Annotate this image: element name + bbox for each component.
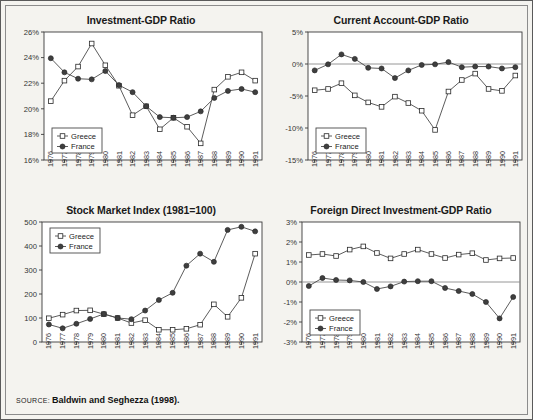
data-point-greece [406,101,411,106]
data-point-france [443,286,448,291]
data-point-greece [320,252,325,257]
data-point-greece [62,78,67,83]
legend-label-greece: Greece [69,232,94,241]
data-point-france [374,287,379,292]
plot-area: -15%-10%-5%0%5%1976197719781979198019811… [272,28,530,200]
data-point-greece [89,41,94,46]
y-tick-label: 18% [24,130,39,139]
data-point-france [446,60,451,65]
data-point-france [129,317,134,322]
legend-marker-france [58,244,63,249]
x-tick-label: 1985 [169,151,178,167]
legend-label-france: France [335,142,359,151]
data-point-france [62,70,67,75]
x-tick-label: 1987 [457,151,466,167]
x-tick-label: 1987 [196,151,205,167]
legend-marker-greece [324,134,329,139]
y-tick-label: 200 [24,290,37,299]
data-point-greece [470,251,475,256]
data-point-france [211,259,216,264]
data-point-france [144,104,149,109]
data-point-greece [143,318,148,323]
data-point-greece [74,308,79,313]
data-point-greece [239,70,244,75]
x-tick-label: 1988 [209,333,218,349]
data-point-france [130,90,135,95]
data-point-france [361,280,366,285]
plot-area: -3%-2%-1%0%1%2%3%19761977197819791980198… [272,218,530,382]
x-tick-label: 1983 [400,333,409,349]
data-point-greece [158,127,163,132]
legend-label-france: France [71,142,95,151]
data-point-greece [429,252,434,257]
y-tick-label: 24% [24,53,39,62]
y-tick-label: -1% [283,298,297,307]
panel-foreign-direct-investment-gdp-ratio: Foreign Direct Investment-GDP Ratio -3%-… [272,198,530,380]
x-tick-label: 1989 [484,151,493,167]
y-tick-label: 0 [33,338,37,347]
y-tick-label: 20% [24,105,39,114]
data-point-greece [446,89,451,94]
panel-grid: Investment-GDP Ratio 16%18%20%22%24%26%1… [6,6,527,382]
data-point-greece [353,93,358,98]
data-point-france [456,289,461,294]
data-point-france [459,65,464,70]
panel-current-account-gdp-ratio: Current Account-GDP Ratio -15%-10%-5%0%5… [272,8,530,198]
x-tick-label: 1988 [468,333,477,349]
data-point-greece [47,316,52,321]
data-point-france [239,224,244,229]
panel-investment-gdp-ratio: Investment-GDP Ratio 16%18%20%22%24%26%1… [10,8,272,198]
plot-area: 0100200300400500197619771978197919801981… [10,218,272,382]
data-point-france [392,76,397,81]
panel-stock-market-index: Stock Market Index (1981=100) 0100200300… [10,198,272,380]
data-point-france [347,278,352,283]
data-point-france [379,66,384,71]
legend-label-france: France [329,324,353,333]
x-tick-label: 1984 [417,151,426,167]
data-point-france [339,52,344,57]
data-point-greece [253,251,258,256]
figure-inner-frame: Investment-GDP Ratio 16%18%20%22%24%26%1… [5,5,528,415]
data-point-greece [456,252,461,257]
x-tick-label: 1991 [251,333,260,349]
x-tick-label: 1984 [154,333,163,349]
data-point-greece [88,308,93,313]
data-point-greece [307,253,312,258]
y-tick-label: -2% [283,318,297,327]
data-point-france [253,90,258,95]
data-point-france [103,69,108,74]
data-point-france [497,316,502,321]
data-point-greece [60,312,65,317]
x-tick-label: 1977 [58,333,67,349]
x-tick-label: 1990 [237,333,246,349]
data-point-greece [361,244,366,249]
data-point-greece [484,258,489,263]
data-point-france [76,76,81,81]
data-point-greece [198,322,203,327]
data-point-france [473,64,478,69]
data-point-france [60,326,65,331]
data-point-france [89,77,94,82]
data-point-france [326,62,331,67]
x-tick-label: 1982 [128,151,137,167]
data-point-greece [500,89,505,94]
data-point-france [352,56,357,61]
x-tick-label: 1989 [223,333,232,349]
data-point-france [433,62,438,67]
legend-marker-france [60,144,65,149]
y-tick-label: 0% [292,60,303,69]
data-point-france [225,227,230,232]
y-tick-label: 22% [24,79,39,88]
x-tick-label: 1990 [237,151,246,167]
data-point-greece [76,64,81,69]
data-point-france [499,66,504,71]
data-point-greece [157,327,162,332]
data-point-greece [239,296,244,301]
y-tick-label: -3% [283,338,297,347]
data-point-greece [433,128,438,133]
data-point-greece [443,256,448,261]
data-point-france [170,290,175,295]
x-tick-label: 1982 [386,333,395,349]
y-tick-label: 3% [286,218,297,227]
data-point-greece [379,105,384,110]
